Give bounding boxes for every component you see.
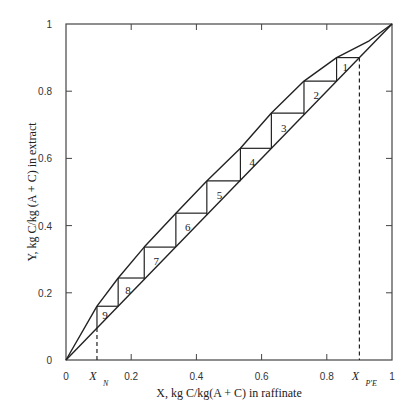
y-tick-label: 0.2	[38, 288, 52, 299]
annotations: XNXP'E	[88, 58, 377, 388]
marker-subscript: N	[102, 379, 109, 388]
y-tick-label: 0.4	[38, 221, 52, 232]
y-tick-label: 0.8	[38, 86, 52, 97]
mccabe-thiele-stage-diagram: 00.20.40.60.8100.20.40.60.81 123456789 X…	[0, 0, 416, 418]
stage-number-label: 5	[217, 189, 223, 201]
y-tick-label: 1	[46, 19, 52, 30]
x-tick-label: 0.6	[255, 371, 269, 382]
stage-number-label: 1	[343, 61, 349, 73]
y-axis-title: Y, kg C/kg (A + C) in extract	[25, 122, 39, 262]
y-tick-label: 0.6	[38, 153, 52, 164]
stage-number-label: 7	[154, 255, 160, 267]
x-tick-label: 0.4	[189, 371, 203, 382]
marker-subscript: P'E	[364, 379, 377, 388]
curves	[66, 24, 392, 360]
x-tick-label: 1	[389, 371, 395, 382]
marker-label: X	[88, 369, 97, 383]
marker-label: X	[351, 369, 360, 383]
x-tick-label: 0.2	[124, 371, 138, 382]
x-axis-title: X, kg C/kg(A + C) in raffinate	[156, 386, 302, 400]
x-tick-label: 0	[63, 371, 69, 382]
stage-number-label: 8	[125, 284, 131, 296]
stage-number-label: 3	[281, 122, 287, 134]
y-tick-label: 0	[46, 355, 52, 366]
operating-line	[66, 24, 392, 360]
x-tick-label: 0.8	[320, 371, 334, 382]
stage-number-label: 2	[314, 89, 320, 101]
stage-number-label: 4	[249, 156, 255, 168]
stage-number-label: 6	[185, 221, 191, 233]
stage-number-label: 9	[102, 309, 108, 321]
